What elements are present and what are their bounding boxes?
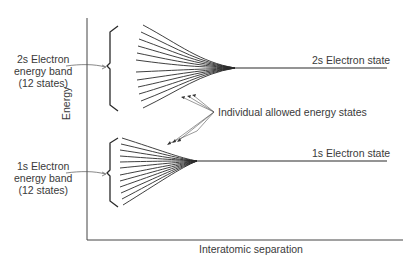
x-axis-label: Interatomic separation (199, 243, 303, 255)
diagram-canvas (0, 0, 411, 258)
bracket-1s (107, 138, 118, 207)
y-axis-label: Energy (60, 87, 72, 120)
band-2s-label: 2s Electron energy band (12 states) (14, 53, 72, 89)
state-1s-label: 1s Electron state (312, 147, 390, 159)
band-1s-label-line-2: energy band (14, 172, 72, 184)
annotation-arrows (168, 95, 214, 144)
band-1s-label: 1s Electron energy band (12 states) (14, 160, 72, 196)
band-2s-label-line-2: energy band (14, 65, 72, 77)
bracket-2s (107, 26, 118, 111)
band-1s-label-line-3: (12 states) (14, 184, 72, 196)
band-2s-label-line-1: 2s Electron (14, 53, 72, 65)
band-1s-curves (120, 138, 197, 205)
state-2s-label: 2s Electron state (312, 54, 390, 66)
annotation-label: Individual allowed energy states (218, 106, 367, 118)
energy-band-diagram: 2s Electron energy band (12 states) 1s E… (0, 0, 411, 258)
band-2s-curves (136, 25, 235, 108)
band-1s-label-line-1: 1s Electron (14, 160, 72, 172)
